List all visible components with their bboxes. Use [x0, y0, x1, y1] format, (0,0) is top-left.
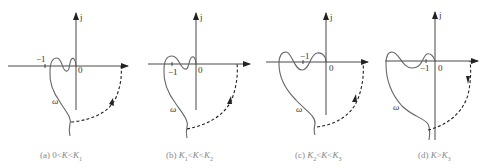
panel-a: −1 0 j ω: [8, 12, 128, 136]
infinite-arc: [317, 62, 363, 127]
imag-label: j: [438, 10, 442, 20]
direction-arrow: [227, 96, 232, 104]
minus-one-label: −1: [420, 63, 430, 73]
nyquist-curve: [279, 52, 326, 135]
caption-d: (d) K>K3: [418, 150, 451, 162]
direction-arrow: [466, 76, 470, 84]
imag-label: j: [79, 12, 83, 22]
nyquist-figure: −1 0 j ω −1 0 j ω −1 0 j ω −1: [0, 0, 484, 168]
direction-arrow: [109, 98, 114, 106]
panel-d: −1 0 j ω: [385, 10, 478, 140]
infinite-arc: [187, 64, 237, 129]
origin-label: 0: [329, 63, 334, 73]
panel-b: −1 0 j ω: [148, 12, 250, 138]
omega-label: ω: [170, 104, 176, 114]
minus-one-label: −1: [300, 51, 310, 61]
caption-b: (b) K1<K<K2: [166, 150, 213, 162]
imag-label: j: [329, 12, 333, 22]
caption-a: (a) 0<K<K1: [40, 150, 82, 162]
omega-label: ω: [393, 102, 399, 112]
imag-label: j: [199, 12, 203, 22]
minus-one-label: −1: [36, 54, 46, 64]
omega-label: ω: [52, 96, 58, 106]
panel-c: −1 0 j ω: [266, 12, 368, 135]
minus-one-label: −1: [168, 67, 178, 77]
infinite-arc: [428, 61, 471, 130]
origin-label: 0: [198, 65, 203, 75]
origin-label: 0: [438, 63, 443, 73]
direction-arrow: [352, 94, 357, 102]
omega-label: ω: [296, 104, 302, 114]
caption-c: (c) K2<K<K3: [295, 150, 341, 162]
origin-label: 0: [78, 65, 83, 75]
